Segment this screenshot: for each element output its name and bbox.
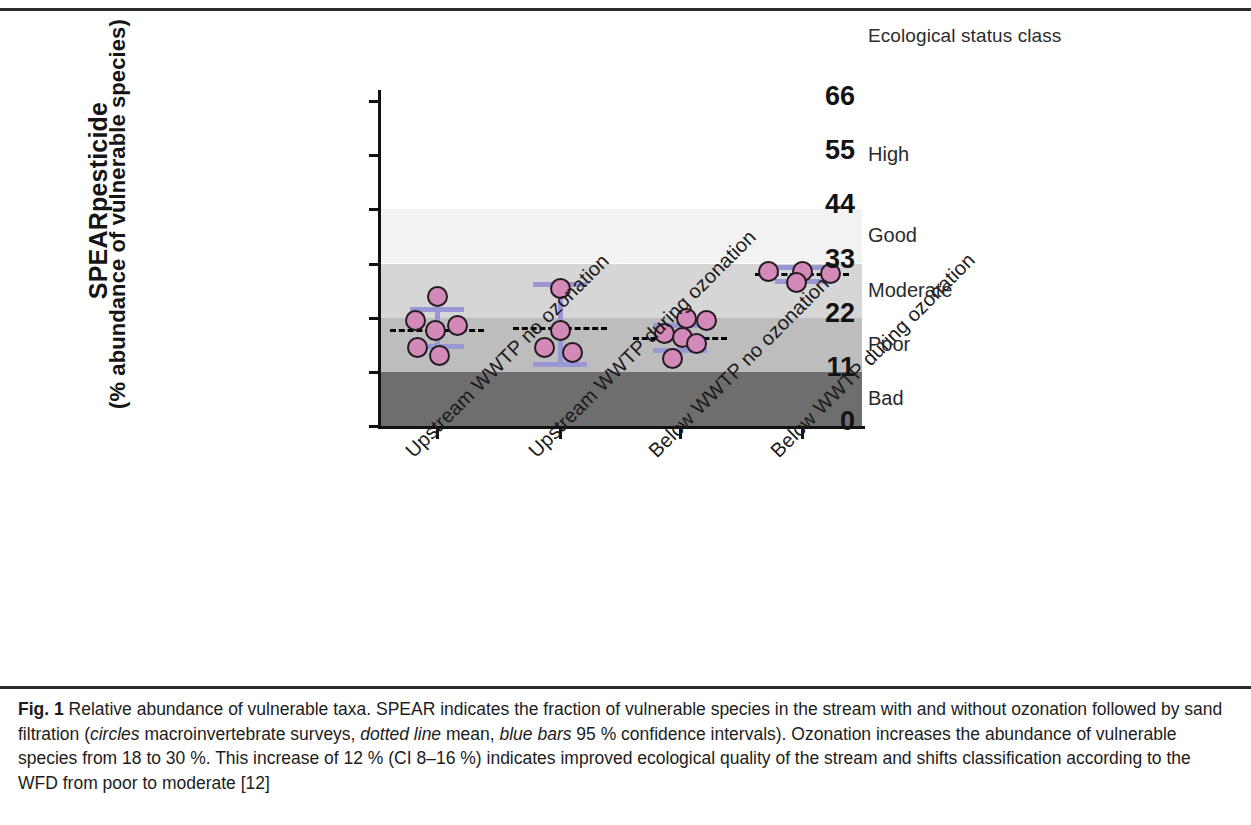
y-tick-label-33: 33 [825,246,855,273]
status-band-high [378,101,862,209]
y-tick-label-44: 44 [825,191,855,218]
y-tick-22 [369,317,378,320]
ci-cap-low-group-1 [533,362,587,367]
y-tick-0 [369,425,378,428]
status-class-label-high: High [868,143,909,166]
figure-panel: Ecological status class SPEARpesticide (… [0,11,1251,683]
status-band-good [378,209,862,263]
y-tick-label-66: 66 [825,83,855,110]
data-point [405,310,426,331]
data-point [429,345,450,366]
status-class-label-bad: Bad [868,387,904,410]
page-rule-middle [0,686,1251,689]
y-tick-label-22: 22 [825,300,855,327]
caption-text-2: macroinvertebrate surveys, [140,724,361,744]
y-tick-label-55: 55 [825,137,855,164]
y-axis-line [378,90,381,426]
ecological-status-class-header: Ecological status class [868,25,1061,47]
data-point [758,261,779,282]
status-class-label-moderate: Moderate [868,279,953,302]
y-tick-44 [369,208,378,211]
y-tick-33 [369,263,378,266]
figure-caption: Fig. 1 Relative abundance of vulnerable … [18,697,1233,795]
caption-italic-circles: circles [90,724,140,744]
figure-number: Fig. 1 [18,699,64,719]
data-point [427,286,448,307]
data-point [562,342,583,363]
data-point [447,315,468,336]
status-class-label-poor: Poor [868,333,910,356]
y-tick-55 [369,154,378,157]
y-axis-title-secondary: (% abundance of vulnerable species) [105,49,131,409]
data-point [662,348,683,369]
y-tick-66 [369,100,378,103]
caption-italic-blue-bars: blue bars [499,724,571,744]
data-point [696,310,717,331]
y-tick-label-0: 0 [840,408,855,435]
y-tick-11 [369,371,378,374]
status-class-label-good: Good [868,224,917,247]
caption-italic-dotted-line: dotted line [360,724,441,744]
data-point [425,320,446,341]
caption-text-3: mean, [441,724,499,744]
